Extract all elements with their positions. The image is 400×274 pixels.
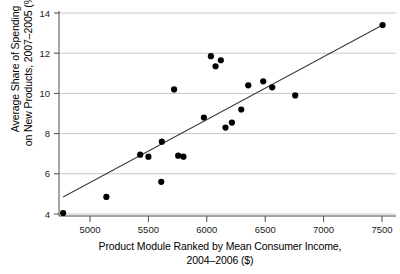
y-tick-label-12: 12 bbox=[39, 48, 50, 59]
y-tick-label-10: 10 bbox=[39, 88, 50, 99]
x-tick-label-7500: 7500 bbox=[371, 224, 392, 235]
axis-lines-group bbox=[59, 11, 396, 216]
x-tick-label-5500: 5500 bbox=[138, 224, 159, 235]
y-tick-label-6: 6 bbox=[45, 168, 50, 179]
trendline-group bbox=[63, 25, 382, 197]
data-point bbox=[245, 82, 251, 88]
data-point bbox=[171, 86, 177, 92]
data-point bbox=[145, 154, 151, 160]
data-point bbox=[218, 57, 224, 63]
data-point bbox=[137, 152, 143, 158]
x-axis-label-line1: Product Module Ranked by Mean Consumer I… bbox=[40, 240, 400, 254]
trend-line bbox=[63, 25, 382, 197]
data-point bbox=[208, 53, 214, 59]
x-tick-label-6000: 6000 bbox=[196, 224, 217, 235]
data-point bbox=[103, 194, 109, 200]
scatter-plot-figure: 500055006000650070007500 468101214 Avera… bbox=[0, 0, 400, 274]
y-axis-label-line2: on New Products, 2007–2005 (%) bbox=[22, 0, 35, 169]
data-point bbox=[292, 92, 298, 98]
x-tick-label-6500: 6500 bbox=[255, 224, 276, 235]
data-point bbox=[159, 139, 165, 145]
y-axis-label-line1: Average Share of Spending bbox=[9, 0, 22, 169]
data-point bbox=[229, 119, 235, 125]
data-point bbox=[180, 154, 186, 160]
data-point bbox=[212, 63, 218, 69]
data-points-group bbox=[60, 22, 386, 216]
data-point bbox=[175, 153, 181, 159]
x-axis-label-line2: 2004–2006 ($) bbox=[40, 254, 400, 268]
data-point bbox=[269, 84, 275, 90]
x-axis-ticks-group: 500055006000650070007500 bbox=[79, 216, 392, 235]
data-point bbox=[238, 106, 244, 112]
gridlines-group bbox=[59, 13, 396, 214]
plot-canvas: 500055006000650070007500 468101214 bbox=[0, 0, 400, 274]
data-point bbox=[158, 179, 164, 185]
data-point bbox=[222, 124, 228, 130]
data-point bbox=[201, 114, 207, 120]
data-point bbox=[60, 210, 66, 216]
x-axis-label: Product Module Ranked by Mean Consumer I… bbox=[40, 240, 400, 267]
x-tick-label-5000: 5000 bbox=[79, 224, 100, 235]
x-tick-label-7000: 7000 bbox=[313, 224, 334, 235]
y-tick-label-14: 14 bbox=[39, 8, 50, 19]
y-tick-label-4: 4 bbox=[45, 209, 50, 220]
y-axis-label: Average Share of Spending on New Product… bbox=[9, 0, 35, 169]
y-tick-label-8: 8 bbox=[45, 128, 50, 139]
data-point bbox=[260, 78, 266, 84]
data-point bbox=[379, 22, 385, 28]
y-axis-ticks-group: 468101214 bbox=[39, 8, 59, 220]
